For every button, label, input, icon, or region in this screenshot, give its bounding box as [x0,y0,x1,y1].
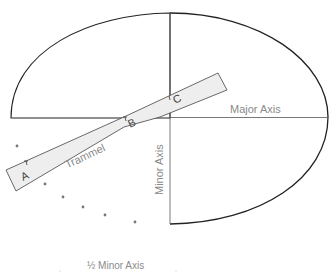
trammel-strip [6,73,227,191]
half-minor-axis-label: ½ Minor Axis [87,260,144,271]
faint-dot [59,270,60,271]
ellipse-upper-left-quadrant [11,13,170,118]
traced-dot [62,196,65,199]
ellipse-trammel-diagram: A B C Trammel Major Axis Minor Axis ½ Mi… [0,0,330,273]
ellipse-right-half [170,13,328,224]
traced-dot [44,183,47,186]
traced-dot [104,214,107,217]
major-axis-label: Major Axis [230,103,281,115]
traced-dot [134,221,137,224]
minor-axis-label: Minor Axis [153,144,165,195]
traced-dot [82,206,85,209]
faint-dot [175,270,176,271]
traced-dot [16,145,19,148]
